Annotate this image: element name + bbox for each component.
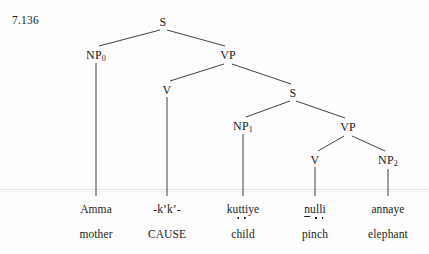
branch-s-inner-np1 <box>246 101 290 117</box>
branch-vp-outer-v-cause <box>170 64 224 81</box>
terminal-word-amma: Amma <box>80 203 112 215</box>
nulli-coda: i <box>323 203 326 215</box>
nulli-dental-underbar: n <box>304 203 310 215</box>
terminal-word-annaye: annaye <box>371 203 404 215</box>
branch-s-root-vp-outer <box>167 30 225 46</box>
node-s-root: S <box>160 15 167 30</box>
syntax-tree-figure: 7.136 S NP0 VP V S NP1 VP V <box>0 0 429 254</box>
terminal-word-kuttiye: kuttiye <box>227 203 260 215</box>
node-np0: NP0 <box>86 48 106 63</box>
terminal-word-causative-suffix: -k’k’- <box>153 203 180 215</box>
branch-vp-outer-s-inner <box>232 64 291 84</box>
node-vp-inner: VP <box>340 120 356 135</box>
node-v-cause: V <box>163 83 172 98</box>
node-s-inner: S <box>290 86 297 101</box>
tree-edges <box>0 0 429 254</box>
gloss-cause: CAUSE <box>148 228 186 240</box>
node-np1: NP1 <box>233 119 253 134</box>
branch-s-root-np0 <box>99 30 160 46</box>
branch-vp-inner-v-pinch <box>318 136 344 151</box>
node-vp-outer: VP <box>220 48 236 63</box>
gloss-pinch: pinch <box>302 228 328 240</box>
kuttiye-retroflex-underdots: tt <box>238 203 245 215</box>
kuttiye-onset: ku <box>227 203 239 215</box>
branch-s-inner-vp-inner <box>296 101 345 118</box>
node-np2: NP2 <box>378 153 398 168</box>
branch-vp-inner-np2 <box>352 136 385 151</box>
terminal-word-nulli: nulli <box>304 203 326 215</box>
kuttiye-coda: iye <box>245 203 259 215</box>
gloss-elephant: elephant <box>368 228 408 240</box>
nulli-retroflex-underdots: ll <box>316 203 323 215</box>
node-v-pinch: V <box>311 153 320 168</box>
gloss-child: child <box>231 228 255 240</box>
gloss-mother: mother <box>79 228 112 240</box>
